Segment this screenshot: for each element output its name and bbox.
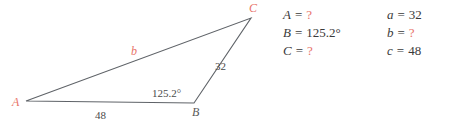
side-label-c: 48 [95, 110, 106, 121]
variable-name: c [387, 43, 393, 58]
side-label-a: 32 [215, 61, 226, 72]
vertex-label-b: B [192, 106, 199, 118]
equation-angle-a: A=? [283, 6, 312, 24]
figure-page: A B C b 32 48 125.2° A=? a=32 B=125.2° b… [0, 0, 453, 125]
value-known: 125.2° [306, 25, 340, 40]
equation-table: A=? a=32 B=125.2° b=? C=? c=48 [283, 6, 453, 66]
value-unknown: ? [307, 43, 313, 58]
value-unknown: ? [409, 25, 415, 40]
equals-sign: = [292, 43, 307, 58]
side-label-b: b [131, 45, 137, 57]
variable-name: B [283, 25, 291, 40]
triangle-figure: A B C b 32 48 125.2° [0, 0, 280, 125]
angle-label-b: 125.2° [152, 88, 181, 99]
equation-row: C=? c=48 [283, 42, 453, 60]
variable-name: a [387, 7, 394, 22]
variable-name: C [283, 43, 292, 58]
variable-name: A [283, 7, 291, 22]
equals-sign: = [394, 7, 409, 22]
equation-angle-c: C=? [283, 42, 313, 60]
equals-sign: = [291, 7, 306, 22]
equation-side-c: c=48 [387, 42, 421, 60]
value-unknown: ? [306, 7, 312, 22]
equation-side-a: a=32 [387, 6, 422, 24]
variable-name: b [387, 25, 394, 40]
value-known: 32 [409, 7, 422, 22]
triangle-drawing [0, 0, 280, 125]
equation-side-b: b=? [387, 24, 415, 42]
equals-sign: = [393, 43, 408, 58]
equals-sign: = [291, 25, 306, 40]
vertex-label-a: A [12, 96, 19, 108]
equation-row: A=? a=32 [283, 6, 453, 24]
equals-sign: = [394, 25, 409, 40]
vertex-label-c: C [249, 2, 257, 14]
equation-row: B=125.2° b=? [283, 24, 453, 42]
equation-angle-b: B=125.2° [283, 24, 341, 42]
value-known: 48 [408, 43, 421, 58]
